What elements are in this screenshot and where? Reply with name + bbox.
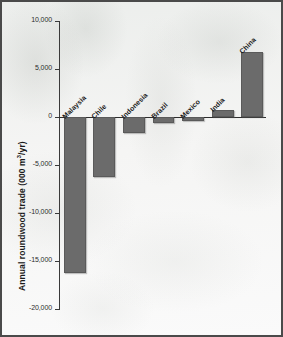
bar bbox=[123, 117, 145, 133]
plot-area: Annual roundwood trade (000 m3/yr) 10,00… bbox=[2, 2, 281, 335]
y-axis-title-prefix: Annual roundwood trade (000 m bbox=[17, 158, 27, 291]
y-axis-title-suffix: /yr) bbox=[17, 141, 27, 155]
y-tick-mark bbox=[55, 165, 60, 166]
category-label: Indonesia bbox=[120, 91, 149, 120]
y-tick-mark bbox=[55, 309, 60, 310]
y-tick-label: -10,000 bbox=[7, 208, 52, 215]
y-tick-label: -5,000 bbox=[7, 160, 52, 167]
y-tick-mark bbox=[55, 69, 60, 70]
bar bbox=[93, 117, 115, 177]
chart-figure: Annual roundwood trade (000 m3/yr) 10,00… bbox=[0, 0, 283, 337]
bar bbox=[64, 117, 86, 273]
y-tick-label: 5,000 bbox=[7, 64, 52, 71]
y-axis-title-exponent: 3 bbox=[16, 155, 22, 158]
y-tick-label: -15,000 bbox=[7, 256, 52, 263]
y-tick-mark bbox=[55, 261, 60, 262]
y-tick-label: -20,000 bbox=[7, 304, 52, 311]
y-tick-mark bbox=[55, 213, 60, 214]
y-tick-mark bbox=[55, 21, 60, 22]
bar bbox=[241, 52, 263, 117]
y-tick-label: 10,000 bbox=[7, 16, 52, 23]
y-tick-label: 0 bbox=[7, 112, 52, 119]
